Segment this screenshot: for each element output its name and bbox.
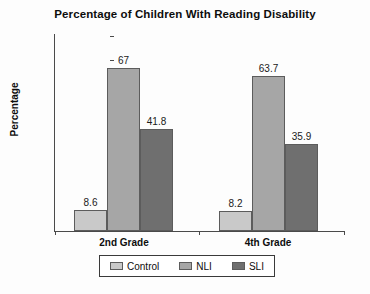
- legend-label-nli: NLI: [196, 261, 212, 272]
- bar-value-4th-grade-sli: 35.9: [275, 131, 328, 142]
- bar-4th-grade-sli: [285, 144, 318, 232]
- x-tick-end: [344, 231, 345, 235]
- bar-chart: Percentage of Children With Reading Disa…: [0, 0, 370, 294]
- legend-item-nli[interactable]: NLI: [179, 261, 212, 272]
- chart-title: Percentage of Children With Reading Disa…: [0, 8, 370, 20]
- bar-4th-grade-control: [219, 211, 252, 231]
- legend-item-control[interactable]: Control: [110, 261, 159, 272]
- legend-swatch-control-icon: [110, 262, 123, 270]
- legend-label-control: Control: [127, 261, 159, 272]
- legend-label-sli: SLI: [249, 261, 264, 272]
- bar-2nd-grade-sli: [140, 129, 173, 231]
- bar-value-4th-grade-nli: 63.7: [242, 63, 295, 74]
- legend-item-sli[interactable]: SLI: [232, 261, 264, 272]
- bar-value-2nd-grade-nli: 67: [97, 55, 150, 66]
- chart-legend: Control NLI SLI: [99, 255, 275, 277]
- y-axis-ticks: 0 10 20 30 40 50 60 70: [0, 36, 55, 231]
- legend-swatch-sli-icon: [232, 262, 245, 270]
- x-category-label-2nd-grade: 2nd Grade: [72, 237, 176, 248]
- plot-area: 8.6 67 41.8 8.2 63.7 35.9 2nd Grade 4th …: [55, 36, 345, 231]
- bar-value-2nd-grade-sli: 41.8: [130, 116, 183, 127]
- bar-2nd-grade-nli: [107, 68, 140, 231]
- x-tick-start: [55, 231, 56, 235]
- bar-4th-grade-nli: [252, 76, 285, 231]
- legend-swatch-nli-icon: [179, 262, 192, 270]
- x-category-label-4th-grade: 4th Grade: [216, 237, 320, 248]
- bar-2nd-grade-control: [74, 210, 107, 231]
- x-tick-mid: [199, 231, 200, 235]
